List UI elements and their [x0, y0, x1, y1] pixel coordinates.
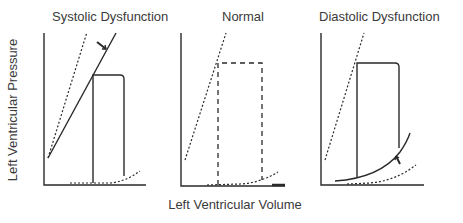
espvr-dotted — [185, 33, 226, 160]
normal-espvr-dotted — [48, 32, 87, 158]
pv-loop-dashed — [218, 63, 262, 185]
panel-systolic — [44, 32, 146, 185]
panel-normal — [181, 33, 285, 186]
axes — [321, 33, 424, 185]
pv-loop — [93, 75, 124, 183]
espvr-dotted — [325, 33, 364, 160]
axes — [44, 33, 146, 185]
edpvr-dotted — [70, 171, 140, 183]
espvr-solid — [48, 33, 116, 158]
pv-loop-diagram — [0, 0, 463, 223]
panel-diastolic — [321, 33, 424, 185]
axes — [181, 33, 285, 186]
